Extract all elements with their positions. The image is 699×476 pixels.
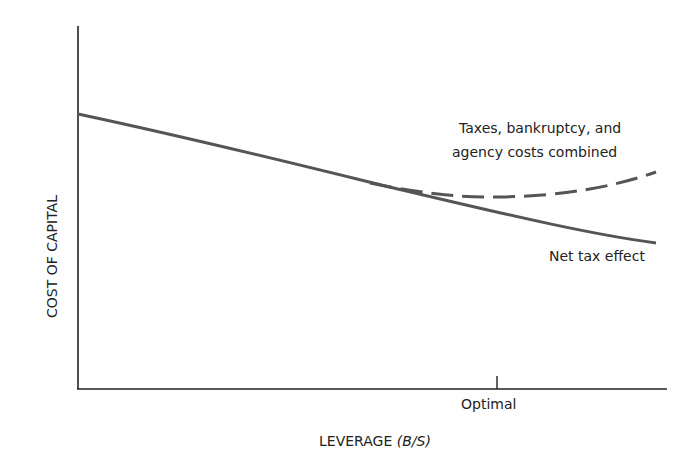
dashed-annotation-1: Taxes, bankruptcy, and — [459, 120, 621, 136]
x-axis-label: LEVERAGE (B/S) — [319, 433, 431, 449]
x-axis-label-text: LEVERAGE — [319, 433, 397, 449]
optimal-tick-label: Optimal — [461, 396, 516, 412]
dashed-annotation-2: agency costs combined — [452, 144, 617, 160]
y-axis-label: COST OF CAPITAL — [44, 195, 60, 318]
chart-canvas — [0, 0, 699, 476]
solid-annotation: Net tax effect — [549, 248, 645, 264]
x-axis-label-unit: (B/S) — [397, 433, 431, 449]
